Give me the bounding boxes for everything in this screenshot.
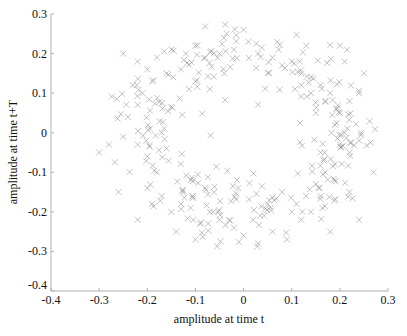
scatter-marker bbox=[196, 70, 202, 76]
scatter-marker bbox=[207, 209, 213, 215]
scatter-marker bbox=[299, 143, 305, 149]
scatter-marker bbox=[300, 49, 306, 55]
scatter-marker bbox=[253, 41, 259, 47]
scatter-marker bbox=[256, 222, 262, 228]
scatter-marker bbox=[119, 91, 125, 97]
scatter-marker bbox=[328, 130, 334, 136]
scatter-marker bbox=[320, 171, 326, 177]
scatter-marker bbox=[118, 111, 124, 117]
scatter-marker bbox=[234, 177, 240, 183]
scatter-marker bbox=[134, 93, 140, 99]
scatter-marker bbox=[309, 163, 315, 169]
scatter-marker bbox=[200, 234, 206, 240]
scatter-marker bbox=[347, 153, 353, 159]
scatter-marker bbox=[316, 185, 322, 191]
x-axis-label: amplitude at time t bbox=[174, 312, 265, 326]
scatter-marker bbox=[343, 135, 349, 141]
scatter-marker bbox=[345, 111, 351, 117]
scatter-marker bbox=[223, 48, 229, 54]
scatter-marker bbox=[212, 184, 218, 190]
scatter-marker bbox=[258, 54, 264, 60]
scatter-marker bbox=[233, 38, 239, 44]
scatter-marker bbox=[251, 207, 257, 213]
x-tick-label: -0.4 bbox=[42, 293, 61, 307]
scatter-marker bbox=[367, 118, 373, 124]
scatter-marker bbox=[350, 195, 356, 201]
y-axis-label: amplitude at time t+T bbox=[6, 99, 20, 204]
scatter-marker bbox=[205, 228, 211, 234]
scatter-marker bbox=[171, 48, 177, 54]
scatter-points bbox=[96, 22, 378, 250]
scatter-marker bbox=[115, 189, 121, 195]
scatter-marker bbox=[322, 98, 328, 104]
scatter-marker bbox=[221, 35, 227, 41]
scatter-chart: -0.4-0.3-0.2-0.100.10.20.3 -0.4-0.3-0.2-… bbox=[0, 0, 407, 336]
scatter-marker bbox=[277, 42, 283, 48]
scatter-marker bbox=[334, 81, 340, 87]
y-tick-label: -0.1 bbox=[28, 165, 47, 179]
scatter-marker bbox=[134, 82, 140, 88]
scatter-marker bbox=[241, 233, 247, 239]
x-tick-label: 0.3 bbox=[381, 293, 396, 307]
scatter-marker bbox=[166, 158, 172, 164]
scatter-marker bbox=[329, 112, 335, 118]
scatter-marker bbox=[162, 136, 168, 142]
scatter-marker bbox=[364, 142, 370, 148]
scatter-marker bbox=[160, 105, 166, 111]
scatter-marker bbox=[115, 116, 121, 122]
scatter-marker bbox=[178, 206, 184, 212]
scatter-marker bbox=[96, 150, 102, 156]
scatter-marker bbox=[269, 55, 275, 61]
scatter-marker bbox=[328, 77, 334, 83]
scatter-marker bbox=[199, 111, 205, 117]
scatter-marker bbox=[147, 182, 153, 188]
scatter-marker bbox=[186, 86, 192, 92]
scatter-marker bbox=[112, 159, 118, 165]
scatter-marker bbox=[106, 142, 112, 148]
scatter-marker bbox=[159, 154, 165, 160]
scatter-marker bbox=[345, 163, 351, 169]
scatter-marker bbox=[318, 216, 324, 222]
scatter-marker bbox=[311, 137, 317, 143]
scatter-marker bbox=[181, 57, 187, 63]
scatter-marker bbox=[214, 243, 220, 249]
scatter-marker bbox=[326, 194, 332, 200]
scatter-marker bbox=[183, 172, 189, 178]
scatter-marker bbox=[205, 73, 211, 79]
scatter-marker bbox=[179, 112, 185, 118]
scatter-marker bbox=[236, 239, 242, 245]
scatter-marker bbox=[194, 52, 200, 58]
scatter-marker bbox=[266, 59, 272, 65]
scatter-marker bbox=[144, 185, 150, 191]
scatter-marker bbox=[135, 58, 141, 64]
scatter-marker bbox=[330, 97, 336, 103]
y-tick-label: 0 bbox=[41, 126, 47, 140]
scatter-marker bbox=[192, 237, 198, 243]
scatter-marker bbox=[325, 177, 331, 183]
scatter-marker bbox=[315, 58, 321, 64]
scatter-marker bbox=[277, 87, 283, 93]
scatter-marker bbox=[145, 127, 151, 133]
scatter-marker bbox=[322, 150, 328, 156]
scatter-marker bbox=[264, 207, 270, 213]
scatter-marker bbox=[195, 172, 201, 178]
scatter-marker bbox=[120, 134, 126, 140]
scatter-marker bbox=[227, 218, 233, 224]
scatter-marker bbox=[346, 98, 352, 104]
scatter-marker bbox=[313, 110, 319, 116]
scatter-marker bbox=[190, 217, 196, 223]
scatter-marker bbox=[342, 180, 348, 186]
scatter-marker bbox=[294, 32, 300, 38]
scatter-marker bbox=[372, 126, 378, 132]
scatter-marker bbox=[151, 168, 157, 174]
scatter-marker bbox=[161, 48, 167, 54]
scatter-marker bbox=[319, 205, 325, 211]
scatter-marker bbox=[135, 102, 141, 108]
scatter-marker bbox=[250, 217, 256, 223]
scatter-marker bbox=[221, 70, 227, 76]
scatter-marker bbox=[164, 146, 170, 152]
scatter-marker bbox=[317, 185, 323, 191]
scatter-marker bbox=[259, 45, 265, 51]
scatter-marker bbox=[205, 221, 211, 227]
scatter-marker bbox=[195, 180, 201, 186]
